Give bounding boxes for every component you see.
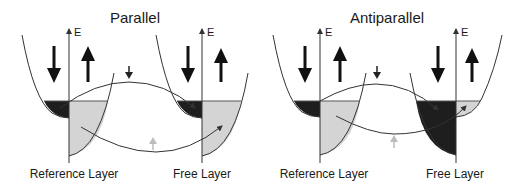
spin-up-tunneling-path (81, 126, 222, 152)
reference-layer-dos: E (22, 26, 114, 163)
spin-up-filled-band (69, 101, 108, 156)
reference-layer-label: Reference Layer (30, 167, 119, 181)
energy-axis-label: E (207, 26, 214, 38)
energy-axis-label: E (461, 26, 468, 38)
energy-axis-label: E (74, 26, 81, 38)
spin-up-arrow-icon (214, 48, 228, 82)
spin-down-arrow-icon (47, 46, 61, 83)
energy-axis-label: E (325, 26, 332, 38)
reference-layer-label: Reference Layer (280, 167, 369, 181)
small-spin-up-arrow-icon (149, 137, 157, 150)
spin-up-filled-band (202, 101, 241, 156)
spin-up-arrow-icon (81, 46, 95, 82)
free-layer-dos: E (156, 26, 248, 163)
panel-parallel: Parallel E (22, 9, 248, 181)
spin-up-arrow-icon (465, 48, 479, 82)
spin-down-arrow-icon (431, 46, 445, 83)
small-spin-down-arrow-icon (373, 66, 381, 79)
small-spin-down-arrow-icon (125, 66, 133, 79)
free-layer-label: Free Layer (426, 167, 484, 181)
spin-up-filled-band (456, 101, 480, 117)
free-layer-label: Free Layer (173, 167, 231, 181)
spin-tunneling-diagram: Parallel E (0, 0, 522, 187)
reference-layer-dos: E (273, 26, 366, 163)
spin-down-arrow-icon (181, 46, 195, 83)
spin-up-filled-band (320, 101, 360, 155)
free-layer-dos: E (410, 26, 502, 163)
panel-title: Parallel (110, 9, 160, 26)
spin-down-arrow-icon (298, 46, 312, 83)
small-spin-up-arrow-icon (390, 135, 398, 148)
spin-up-arrow-icon (333, 46, 347, 82)
panel-antiparallel: Antiparallel E (273, 9, 502, 181)
spin-down-filled-band (416, 101, 456, 155)
panel-title: Antiparallel (350, 9, 424, 26)
